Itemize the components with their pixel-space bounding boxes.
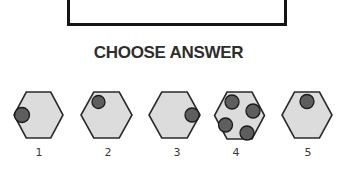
dot-icon	[225, 95, 239, 109]
dot-icon	[15, 108, 30, 123]
hexagon-icon	[81, 92, 132, 138]
option-label: 4	[233, 146, 240, 159]
answer-option-4[interactable]: 4	[215, 92, 265, 159]
dot-icon	[246, 104, 260, 118]
option-label: 2	[105, 146, 112, 159]
dots-group	[92, 96, 105, 109]
dots-group	[15, 108, 30, 123]
dots-group	[300, 95, 314, 109]
answer-option-3[interactable]: 3	[149, 92, 200, 159]
dot-icon	[219, 118, 233, 132]
answer-option-2[interactable]: 2	[81, 92, 132, 159]
dot-icon	[92, 96, 105, 109]
answer-option-1[interactable]: 1	[14, 92, 63, 159]
dot-icon	[185, 108, 199, 122]
option-label: 3	[174, 146, 181, 159]
answer-options: 1 2 3 4 5	[0, 0, 337, 187]
option-label: 5	[305, 146, 312, 159]
dot-icon	[300, 95, 314, 109]
answer-option-5[interactable]: 5	[282, 92, 332, 159]
option-label: 1	[36, 146, 43, 159]
dot-icon	[240, 126, 254, 140]
dots-group	[185, 108, 199, 122]
